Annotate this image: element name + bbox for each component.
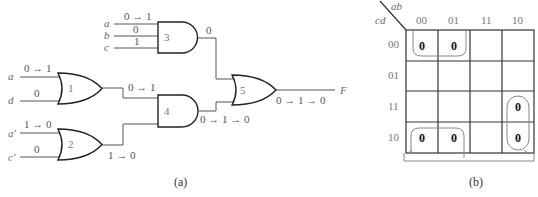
- kmap-cell-10-01: 0: [451, 131, 457, 145]
- signal-g1-a: 0 → 1: [24, 62, 52, 74]
- gate-5-label: 5: [240, 84, 246, 96]
- output-label-f: F: [339, 84, 347, 96]
- signal-g3-out: 0: [206, 24, 212, 36]
- gate-4-label: 4: [164, 105, 170, 117]
- input-label-a-prime-g2: a′: [8, 127, 17, 139]
- or-gate-5: [232, 75, 276, 105]
- kmap-col-header-10: 10: [512, 14, 524, 26]
- kmap-row-header-01: 01: [388, 69, 399, 81]
- signal-g1-d: 0: [34, 87, 40, 99]
- signal-g2-out: 1 → 0: [108, 149, 136, 161]
- diagram-canvas: a 0 → 1 b 0 c 1 3 0 a 0 → 1 d 0 1 0 → 1 …: [0, 0, 538, 197]
- kmap-cell-10-10: 0: [515, 131, 521, 145]
- kmap-wrap-bracket: [404, 150, 534, 161]
- or-gate-2: [58, 129, 102, 160]
- input-label-d-g1: d: [8, 94, 14, 106]
- or-gate-1: [58, 73, 102, 104]
- signal-g3-a: 0 → 1: [124, 10, 152, 22]
- signal-g4-out: 0 → 1 → 0: [200, 113, 250, 125]
- kmap-row-header-10: 10: [388, 131, 400, 143]
- input-label-b-g3: b: [104, 29, 110, 41]
- input-label-a-g3: a: [104, 17, 110, 29]
- logic-circuit: a 0 → 1 b 0 c 1 3 0 a 0 → 1 d 0 1 0 → 1 …: [8, 10, 347, 189]
- kmap-cell-00-00: 0: [419, 39, 425, 53]
- gate-2-label: 2: [68, 138, 74, 150]
- signal-g3-c: 1: [134, 35, 140, 47]
- input-label-a-g1: a: [8, 70, 14, 82]
- kmap-col-var: ab: [391, 0, 403, 12]
- caption-a: (a): [174, 175, 187, 189]
- kmap-row-var: cd: [375, 14, 386, 26]
- gate-3-label: 3: [164, 31, 170, 43]
- signal-g3-b: 0: [133, 23, 139, 35]
- gate-1-label: 1: [68, 82, 74, 94]
- kmap-row-header-00: 00: [388, 38, 400, 50]
- kmap-col-header-11: 11: [481, 14, 492, 26]
- signal-g2-a: 1 → 0: [24, 118, 52, 130]
- caption-b: (b): [469, 175, 483, 189]
- kmap-cell-10-00: 0: [419, 131, 425, 145]
- karnaugh-map: ab cd 00 01 11 10 00 01 11 10 0 0 0 0: [375, 0, 534, 189]
- signal-g5-out: 0 → 1 → 0: [276, 94, 326, 106]
- input-label-c-g3: c: [104, 41, 109, 53]
- kmap-cell-00-01: 0: [451, 39, 457, 53]
- signal-g1-out: 0 → 1: [128, 81, 156, 93]
- kmap-col-header-00: 00: [416, 14, 428, 26]
- kmap-row-header-11: 11: [388, 100, 399, 112]
- input-label-c-prime-g2: c′: [8, 151, 16, 163]
- kmap-col-header-01: 01: [448, 14, 459, 26]
- kmap-cell-11-10: 0: [515, 100, 521, 114]
- signal-g2-c: 0: [34, 143, 40, 155]
